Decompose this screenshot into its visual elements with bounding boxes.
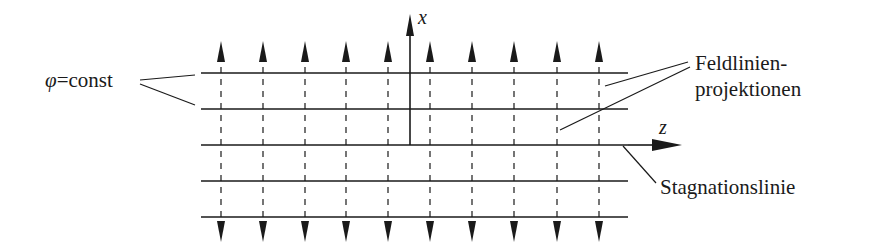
arrow-up-icon (301, 41, 309, 62)
phi-const-lines (201, 73, 628, 217)
arrow-up-icon (217, 41, 225, 62)
arrow-down-icon (468, 221, 476, 242)
phi-const-label: φ=const (45, 68, 113, 92)
arrow-up-icon (342, 41, 350, 62)
stagnation-label: Stagnationslinie (660, 175, 795, 199)
feldlinien-label-line1: Feldlinien- (695, 51, 787, 75)
phi-const-annotation: φ=const (45, 68, 195, 105)
arrow-down-icon (595, 221, 603, 242)
arrow-down-icon (510, 221, 518, 242)
z-axis-label: z (658, 116, 667, 138)
arrow-down-icon (553, 221, 561, 242)
x-axis-label: x (417, 6, 427, 28)
arrow-up-icon (468, 41, 476, 62)
arrow-down-icon (426, 221, 434, 242)
arrow-up-icon (510, 41, 518, 62)
stagnation-annotation: Stagnationslinie (623, 146, 795, 199)
field-projection-annotation: Feldlinien- projektionen (560, 51, 802, 130)
arrow-up-icon (595, 41, 603, 62)
arrow-down-icon (301, 221, 309, 242)
field-line-diagram: x z φ=const Feldlinien- projektionen Sta… (0, 0, 869, 246)
arrow-down-icon (384, 221, 392, 242)
z-axis: z (628, 116, 682, 151)
x-axis: x (406, 6, 427, 145)
arrow-down-icon (342, 221, 350, 242)
z-axis-arrowhead-icon (652, 139, 682, 151)
arrow-up-icon (426, 41, 434, 62)
arrow-down-icon (217, 221, 225, 242)
arrow-up-icon (259, 41, 267, 62)
arrow-up-icon (553, 41, 561, 62)
feldlinien-label-line2: projektionen (695, 77, 802, 101)
arrow-up-icon (384, 41, 392, 62)
x-axis-arrowhead-icon (406, 14, 414, 36)
arrow-down-icon (259, 221, 267, 242)
